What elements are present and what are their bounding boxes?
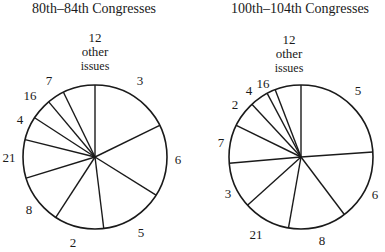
pie-charts (0, 0, 385, 252)
left-other-text2: issues (81, 59, 110, 73)
left-label-16: 16 (24, 89, 37, 103)
right-other-text1: other (275, 47, 304, 61)
right-other-text2: issues (275, 61, 304, 75)
right-label-2: 2 (232, 98, 239, 112)
right-other-label: 12 other issues (275, 33, 304, 75)
left-other-count: 12 (81, 31, 110, 45)
right-label-5: 5 (355, 84, 362, 98)
right-other-count: 12 (275, 33, 304, 47)
left-label-5: 5 (138, 226, 145, 240)
right-label-3: 3 (225, 187, 232, 201)
left-label-7: 7 (46, 74, 53, 88)
left-pie (23, 85, 167, 229)
right-label-7: 7 (218, 136, 225, 150)
left-label-2: 2 (70, 236, 77, 250)
left-other-label: 12 other issues (81, 31, 110, 73)
right-label-4: 4 (246, 84, 253, 98)
right-label-8: 8 (319, 234, 326, 248)
right-label-16: 16 (257, 77, 270, 91)
left-label-3: 3 (137, 74, 144, 88)
right-label-6: 6 (372, 188, 379, 202)
left-label-21: 21 (3, 151, 16, 165)
left-label-8: 8 (26, 203, 33, 217)
right-label-21: 21 (250, 228, 263, 242)
right-pie (229, 85, 373, 229)
left-other-text1: other (81, 45, 110, 59)
left-label-6: 6 (175, 153, 182, 167)
left-label-4: 4 (17, 113, 24, 127)
